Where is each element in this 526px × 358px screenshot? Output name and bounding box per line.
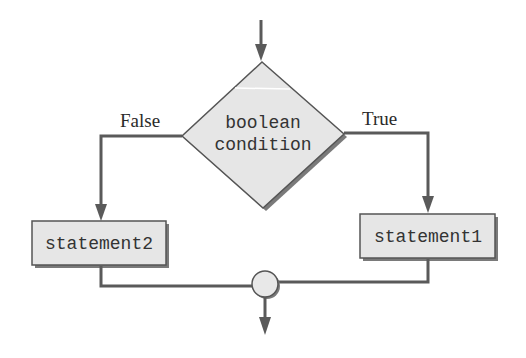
if-else-flowchart: boolean condition False True statement2 …: [0, 0, 526, 358]
statement1-text: statement1: [374, 227, 482, 247]
true-branch-connector: [344, 133, 434, 213]
entry-arrow: [255, 20, 267, 61]
decision-diamond: boolean condition: [182, 62, 347, 211]
decision-text-line1: boolean: [225, 113, 301, 133]
junction-circle: [252, 271, 280, 299]
false-branch-connector: [95, 136, 182, 221]
statement1-box: statement1: [360, 214, 498, 261]
exit-arrow: [259, 297, 271, 335]
false-label: False: [120, 110, 160, 131]
decision-text-line2: condition: [214, 135, 311, 155]
true-label: True: [362, 108, 397, 129]
statement2-box: statement2: [32, 221, 169, 268]
statement2-text: statement2: [45, 234, 153, 254]
